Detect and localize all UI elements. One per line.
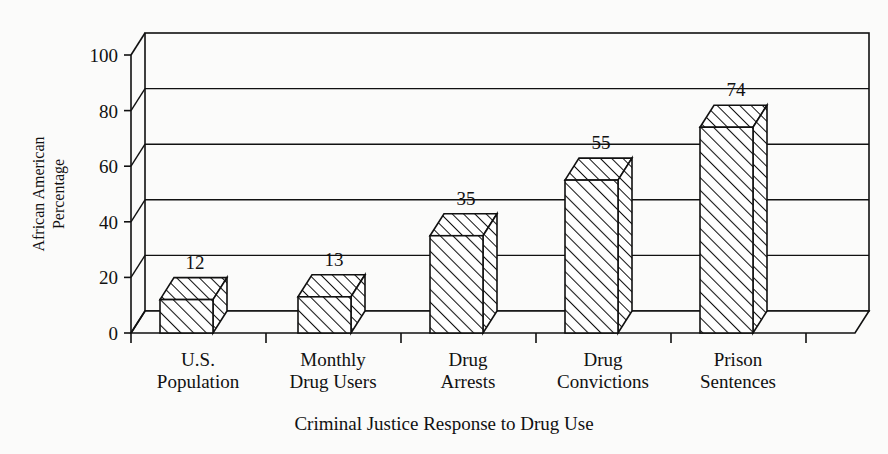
y-axis-title-line2: Percentage [50,159,68,229]
value-label-monthly-drug-users: 13 [325,249,344,270]
ytick-label-80: 80 [99,101,118,122]
ytick-label-100: 100 [90,45,119,66]
bar-drug-convictions [565,158,632,333]
bar-front-face [430,236,483,333]
bar-side-face [618,158,632,333]
bar-front-face [565,180,618,333]
y-axis-title-line1: African American [30,136,47,251]
ytick-label-40: 40 [99,212,118,233]
ytick-label-60: 60 [99,156,118,177]
category-label-prison-sentences-line2: Sentences [700,371,776,392]
category-label-drug-convictions-line2: Convictions [557,371,649,392]
bar-front-face [298,297,351,333]
value-label-prison-sentences: 74 [727,79,747,100]
bar-front-face [700,127,753,333]
bar-front-face [160,300,213,333]
bar-prison-sentences [700,105,767,333]
bar-side-face [483,214,497,333]
category-label-drug-arrests-line1: Drug [448,349,488,370]
category-label-us-population-line2: Population [157,371,240,392]
bar-chart-3d: 100 80 60 40 20 0 African American Perce… [0,0,888,454]
category-label-monthly-drug-users-line2: Drug Users [289,371,376,392]
value-label-drug-convictions: 55 [592,132,611,153]
ytick-label-20: 20 [99,267,118,288]
bar-drug-arrests [430,214,497,333]
category-label-prison-sentences-line1: Prison [714,349,763,370]
ytick-label-0: 0 [109,323,119,344]
value-label-drug-arrests: 35 [457,188,476,209]
category-label-drug-arrests-line2: Arrests [441,371,496,392]
bar-side-face [753,105,767,333]
x-axis-title: Criminal Justice Response to Drug Use [294,413,593,434]
value-label-us-population: 12 [186,252,205,273]
bar-monthly-drug-users [298,275,365,333]
category-label-monthly-drug-users-line1: Monthly [300,349,366,370]
category-label-us-population-line1: U.S. [181,349,215,370]
bar-us-population [160,278,227,333]
chart-container: 100 80 60 40 20 0 African American Perce… [0,0,888,454]
category-label-drug-convictions-line1: Drug [583,349,623,370]
